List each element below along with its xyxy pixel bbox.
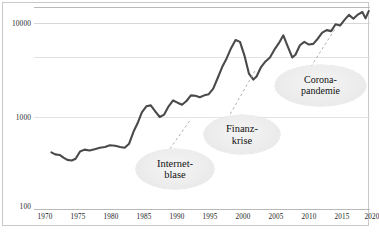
annotation-finanzkrise-line2: krise [226, 135, 258, 146]
chart-frame: 10000 1000 100 1970 1975 1980 1985 1990 … [2, 2, 369, 226]
x-tick-1990: 1990 [170, 213, 185, 221]
footer-strip [0, 228, 372, 233]
x-tick-2015: 2015 [335, 213, 350, 221]
x-tick-2000: 2000 [236, 213, 251, 221]
annotation-finanzkrise[interactable]: Finanz- krise [204, 115, 280, 154]
y-tick-10000: 10000 [12, 19, 31, 28]
annotation-internetblase-line2: blase [157, 169, 193, 180]
annotation-internetblase[interactable]: Internet- blase [136, 149, 214, 189]
x-tick-1995: 1995 [203, 213, 218, 221]
y-tick-100: 100 [20, 202, 31, 211]
x-tick-1970: 1970 [38, 213, 53, 221]
annotation-coronapandemie-line2: pandemie [301, 86, 340, 97]
annotation-coronapandemie[interactable]: Corona- pandemie [275, 65, 366, 106]
annotation-internetblase-line1: Internet- [157, 158, 193, 169]
x-tick-1975: 1975 [71, 213, 86, 221]
x-tick-2010: 2010 [302, 213, 317, 221]
y-tick-1000: 1000 [16, 113, 31, 122]
x-tick-2005: 2005 [269, 213, 284, 221]
annotation-coronapandemie-line1: Corona- [301, 75, 340, 86]
annotation-finanzkrise-line1: Finanz- [226, 123, 258, 134]
x-tick-1985: 1985 [137, 213, 152, 221]
x-tick-1980: 1980 [104, 213, 119, 221]
x-tick-2020: 2020 [365, 213, 379, 221]
